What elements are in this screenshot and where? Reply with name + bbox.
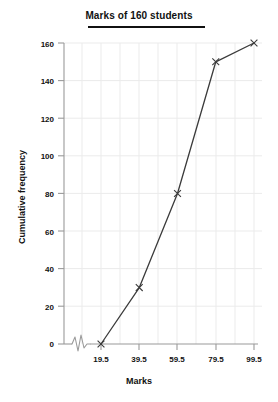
y-axis-tick-labels: 160 140 120 100 80 60 40 20 0: [41, 40, 55, 350]
y-tick-label-80: 80: [45, 190, 54, 199]
x-tick-label-99-5: 99.5: [246, 355, 262, 364]
x-axis-tick-labels: 19.5 39.5 59.5 79.5 99.5: [93, 355, 262, 364]
y-axis-label: Cumulative frequency: [17, 127, 27, 267]
y-tick-label-160: 160: [41, 40, 55, 49]
x-axis-label: Marks: [0, 376, 278, 386]
y-tick-label-40: 40: [45, 265, 54, 274]
y-tick-label-120: 120: [41, 115, 55, 124]
y-tick-label-140: 140: [41, 77, 55, 86]
cumulative-frequency-chart: Marks of 160 students: [0, 0, 278, 402]
x-tick-label-59-5: 59.5: [169, 355, 185, 364]
x-tick-label-39-5: 39.5: [131, 355, 147, 364]
y-tick-label-20: 20: [45, 303, 54, 312]
y-tick-label-60: 60: [45, 228, 54, 237]
x-axis-break-icon: [72, 335, 90, 351]
y-tick-label-100: 100: [41, 152, 55, 161]
x-axis-ticks: [101, 344, 254, 350]
y-tick-label-0: 0: [50, 340, 55, 349]
y-axis-ticks: [58, 43, 64, 344]
gridlines-horizontal: [64, 43, 262, 306]
x-tick-label-79-5: 79.5: [208, 355, 224, 364]
plot-area: 160 140 120 100 80 60 40 20 0 19.5 39.5 …: [0, 0, 278, 402]
x-tick-label-19-5: 19.5: [93, 355, 109, 364]
